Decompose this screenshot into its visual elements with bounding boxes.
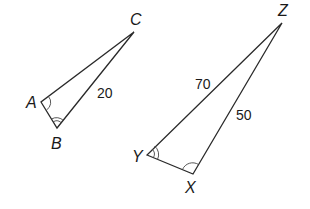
- vertex-label-c: C: [130, 11, 142, 28]
- vertex-label-b: B: [51, 135, 62, 152]
- angle-a-mark: [47, 97, 51, 111]
- angle-y-mark-outer: [155, 146, 159, 160]
- triangle-xyz: Y X Z 70 50: [132, 2, 289, 196]
- triangle-abc: A B C 20: [25, 11, 142, 152]
- angle-b-mark-outer: [52, 118, 64, 121]
- side-label-xz: 50: [236, 107, 252, 123]
- vertex-label-a: A: [25, 94, 37, 111]
- vertex-label-z: Z: [277, 2, 289, 19]
- triangle-xyz-outline: [147, 23, 282, 174]
- vertex-label-y: Y: [132, 148, 144, 165]
- side-label-bc: 20: [97, 85, 113, 101]
- similar-triangles-diagram: A B C 20 Y X Z 70 50: [0, 0, 310, 209]
- side-label-yz: 70: [195, 76, 211, 92]
- triangle-abc-outline: [41, 32, 134, 128]
- vertex-label-x: X: [184, 179, 197, 196]
